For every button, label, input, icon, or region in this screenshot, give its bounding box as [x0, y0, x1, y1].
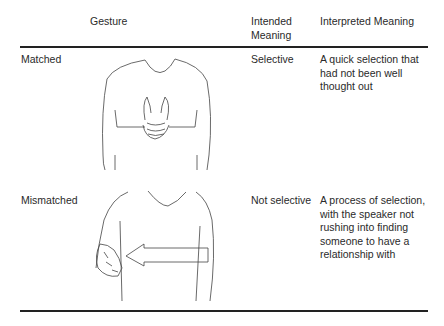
hand-at-side-arrow-figure-icon	[90, 186, 220, 306]
intended-meaning: Selective	[251, 53, 294, 67]
interpreted-meaning: A process of selection, with the speaker…	[320, 194, 430, 262]
hands-clasped-figure-icon	[85, 55, 225, 170]
interpreted-meaning: A quick selection that had not been well…	[320, 53, 428, 94]
footer-rule	[20, 310, 428, 312]
header-gesture: Gesture	[90, 14, 127, 28]
intended-meaning: Not selective	[251, 194, 311, 208]
header-intended-meaning: Intended Meaning	[251, 14, 313, 42]
header-rule	[20, 46, 428, 48]
row-label: Matched	[21, 53, 61, 67]
row-label: Mismatched	[21, 194, 78, 208]
header-interpreted-meaning: Interpreted Meaning	[320, 14, 430, 28]
